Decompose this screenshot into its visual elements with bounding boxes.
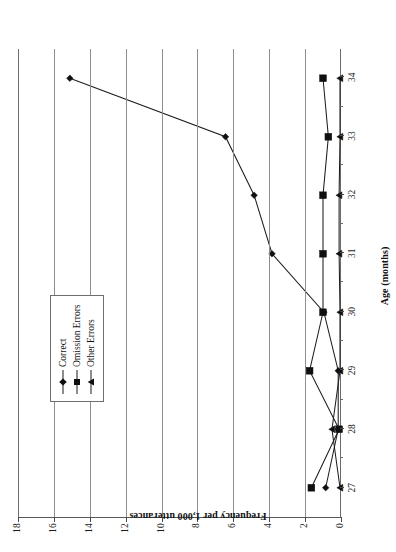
x-axis-title: Age (months) (379, 0, 390, 552)
gridline (18, 49, 19, 517)
x-axis-tick (340, 194, 344, 195)
data-point-marker (320, 309, 327, 316)
data-point-marker (306, 367, 313, 374)
x-axis-tick-label: 33 (347, 123, 357, 149)
x-axis-tick (340, 311, 344, 312)
gridline (90, 49, 91, 517)
x-axis-tick-label: 31 (347, 240, 357, 266)
x-axis-tick (340, 252, 344, 253)
legend-marker-square-icon (71, 369, 83, 395)
legend-label-omission-errors: Omission Errors (71, 304, 83, 369)
x-axis-tick (340, 135, 344, 136)
series-line (70, 78, 338, 488)
x-axis-minor-tick (340, 340, 343, 341)
legend-item: Omission Errors (70, 304, 84, 395)
legend-marker-diamond-icon (57, 369, 69, 395)
x-axis-tick (340, 76, 344, 77)
data-point-marker (308, 484, 315, 491)
x-axis-tick-label: 29 (347, 357, 357, 383)
y-axis-tick-label: 8 (192, 523, 202, 547)
x-axis-tick-label: 32 (347, 182, 357, 208)
y-axis-tick-label: 16 (49, 523, 59, 547)
data-point-marker (320, 192, 327, 199)
gridline (126, 49, 127, 517)
line-chart: 0246810121416182728293031323334 Correct … (0, 0, 396, 552)
x-axis-tick-label: 28 (347, 416, 357, 442)
x-axis-minor-tick (340, 399, 343, 400)
gridline (162, 49, 163, 517)
data-point-marker (320, 75, 327, 82)
y-axis-tick-label: 10 (157, 523, 167, 547)
plot-area: 0246810121416182728293031323334 (18, 49, 341, 518)
y-axis-tick-label: 18 (13, 523, 23, 547)
series-layer (18, 49, 340, 517)
x-axis-tick (340, 487, 344, 488)
x-axis-minor-tick (340, 282, 343, 283)
y-axis-tick-label: 6 (228, 523, 238, 547)
y-axis-tick-label: 14 (85, 523, 95, 547)
y-axis-tick-label: 0 (336, 523, 346, 547)
figure-page: 0246810121416182728293031323334 Correct … (0, 0, 396, 552)
x-axis-tick (340, 428, 344, 429)
gridline (54, 49, 55, 517)
data-point-marker (67, 75, 74, 82)
x-axis-minor-tick (340, 106, 343, 107)
data-point-marker (322, 484, 329, 491)
x-axis-minor-tick (340, 457, 343, 458)
legend-label-correct: Correct (57, 339, 69, 370)
x-axis-minor-tick (340, 223, 343, 224)
y-axis-tick-label: 2 (300, 523, 310, 547)
data-point-marker (222, 133, 229, 140)
gridline (233, 49, 234, 517)
data-point-marker (320, 250, 327, 257)
gridline (305, 49, 306, 517)
x-axis-tick-label: 30 (347, 299, 357, 325)
y-axis-tick (18, 517, 19, 522)
data-point-marker (336, 426, 343, 433)
data-point-marker (325, 133, 332, 140)
x-axis-minor-tick (340, 164, 343, 165)
gridline (269, 49, 270, 517)
legend-item: Correct (56, 304, 70, 395)
y-axis-tick-label: 4 (264, 523, 274, 547)
chart-legend: Correct Omission Errors Other Errors (50, 295, 104, 402)
data-point-marker (251, 192, 258, 199)
x-axis-tick-label: 34 (347, 64, 357, 90)
x-axis-tick (340, 369, 344, 370)
legend-marker-triangle-icon (85, 369, 97, 395)
rotated-figure-frame: 0246810121416182728293031323334 Correct … (0, 0, 396, 552)
legend-label-other-errors: Other Errors (85, 319, 97, 369)
legend-item: Other Errors (84, 304, 98, 395)
y-axis-title: Frequency per 1,000 utterances (37, 511, 360, 522)
gridline (197, 49, 198, 517)
y-axis-tick-label: 12 (121, 523, 131, 547)
x-axis-tick-label: 27 (347, 475, 357, 501)
